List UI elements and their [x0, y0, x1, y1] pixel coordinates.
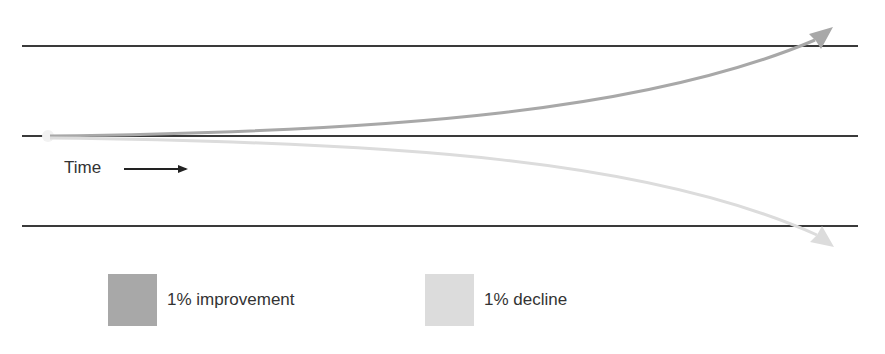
legend-swatch-improvement	[108, 274, 157, 326]
legend-item-improvement: 1% improvement	[108, 274, 295, 326]
legend-item-decline: 1% decline	[425, 274, 567, 326]
decline-arrowhead-icon	[810, 226, 834, 247]
legend-label-improvement: 1% improvement	[167, 290, 295, 310]
improvement-curve	[50, 40, 815, 136]
legend-label-decline: 1% decline	[484, 290, 567, 310]
time-label: Time	[64, 158, 101, 178]
decline-curve	[50, 138, 817, 235]
legend-swatch-decline	[425, 274, 474, 326]
